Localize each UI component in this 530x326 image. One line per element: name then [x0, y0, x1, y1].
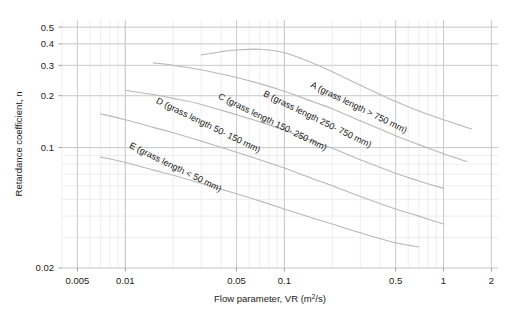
- y-tick-label: 0.1: [41, 142, 54, 153]
- x-tick-label: 0.01: [116, 275, 135, 286]
- y-tick-label: 0.2: [41, 90, 54, 101]
- data-curves: [101, 49, 472, 247]
- grid-lines: [62, 20, 498, 268]
- x-tick-label: 1: [441, 275, 446, 286]
- x-tick-label: 0.5: [389, 275, 402, 286]
- x-tick-label: 0.05: [227, 275, 246, 286]
- y-tick-label: 0.02: [36, 262, 55, 273]
- retardance-coefficient-chart: A (grass length > 750 mm)B (grass length…: [0, 0, 530, 326]
- x-axis-title: Flow parameter, VR (m2/s): [214, 293, 326, 305]
- y-tick-label: 0.5: [41, 22, 54, 33]
- y-tick-label: 0.3: [41, 60, 54, 71]
- curve-labels: A (grass length > 750 mm)B (grass length…: [128, 80, 409, 194]
- tick-labels: 0.0050.010.050.10.5120.020.10.20.30.40.5: [36, 22, 495, 286]
- x-axis-title-tail: /s): [315, 293, 326, 304]
- y-tick-label: 0.4: [41, 38, 54, 49]
- curve-a: [201, 49, 471, 129]
- y-axis-title: Retardance coefficient, n: [13, 92, 24, 197]
- grid-lines-emphasis: [62, 20, 498, 268]
- x-axis-title-base: Flow parameter, VR (m: [214, 293, 312, 304]
- chart-figure: A (grass length > 750 mm)B (grass length…: [0, 0, 530, 326]
- curve-d: [101, 114, 444, 224]
- x-tick-label: 0.1: [278, 275, 291, 286]
- x-tick-label: 2: [489, 275, 494, 286]
- x-tick-label: 0.005: [66, 275, 90, 286]
